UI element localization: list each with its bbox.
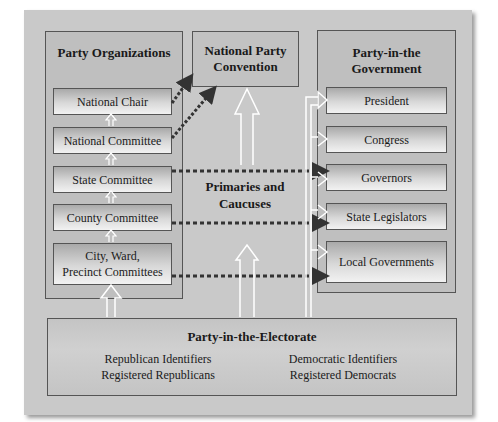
org-county-committee: County Committee [53, 204, 172, 231]
org-label: County Committee [67, 210, 159, 226]
primaries-line2: Caucuses [185, 195, 305, 212]
org-city-ward-precinct: City, Ward, Precinct Committees [53, 243, 172, 285]
org-national-chair: National Chair [53, 88, 172, 115]
national-party-convention: National Party Convention [192, 31, 299, 87]
gov-president: President [326, 87, 447, 114]
gov-local-governments: Local Governments [326, 241, 447, 283]
gov-label: Local Governments [339, 254, 434, 270]
party-in-electorate-title: Party-in-the-Electorate [48, 329, 456, 345]
gov-label: Governors [361, 170, 412, 186]
convention-line1: National Party [205, 43, 287, 59]
convention-line2: Convention [213, 59, 277, 75]
org-national-committee: National Committee [53, 127, 172, 154]
government-title-line2: Government [318, 61, 455, 77]
gov-state-legislators: State Legislators [326, 203, 447, 230]
registered-democrats: Registered Democrats [273, 367, 413, 383]
org-label: City, Ward, Precinct Committees [62, 248, 162, 280]
primaries-line1: Primaries and [185, 178, 305, 195]
government-title-line1: Party-in-the [318, 45, 455, 61]
party-in-electorate-panel: Party-in-the-Electorate Republican Ident… [47, 318, 457, 396]
party-organizations-title: Party Organizations [46, 45, 182, 61]
democratic-identifiers: Democratic Identifiers [273, 351, 413, 367]
registered-republicans: Registered Republicans [88, 367, 228, 383]
primaries-caucuses-label: Primaries and Caucuses [185, 178, 305, 212]
party-in-government-title: Party-in-the Government [318, 45, 455, 77]
democratic-column: Democratic Identifiers Registered Democr… [273, 351, 413, 383]
org-state-committee: State Committee [53, 166, 172, 193]
gov-governors: Governors [326, 164, 447, 191]
org-label: National Committee [64, 133, 162, 149]
gov-label: State Legislators [346, 209, 426, 225]
republican-identifiers: Republican Identifiers [88, 351, 228, 367]
org-label: State Committee [72, 172, 152, 188]
republican-column: Republican Identifiers Registered Republ… [88, 351, 228, 383]
org-label: National Chair [77, 94, 148, 110]
gov-congress: Congress [326, 126, 447, 153]
gov-label: President [364, 93, 409, 109]
gov-label: Congress [364, 132, 409, 148]
